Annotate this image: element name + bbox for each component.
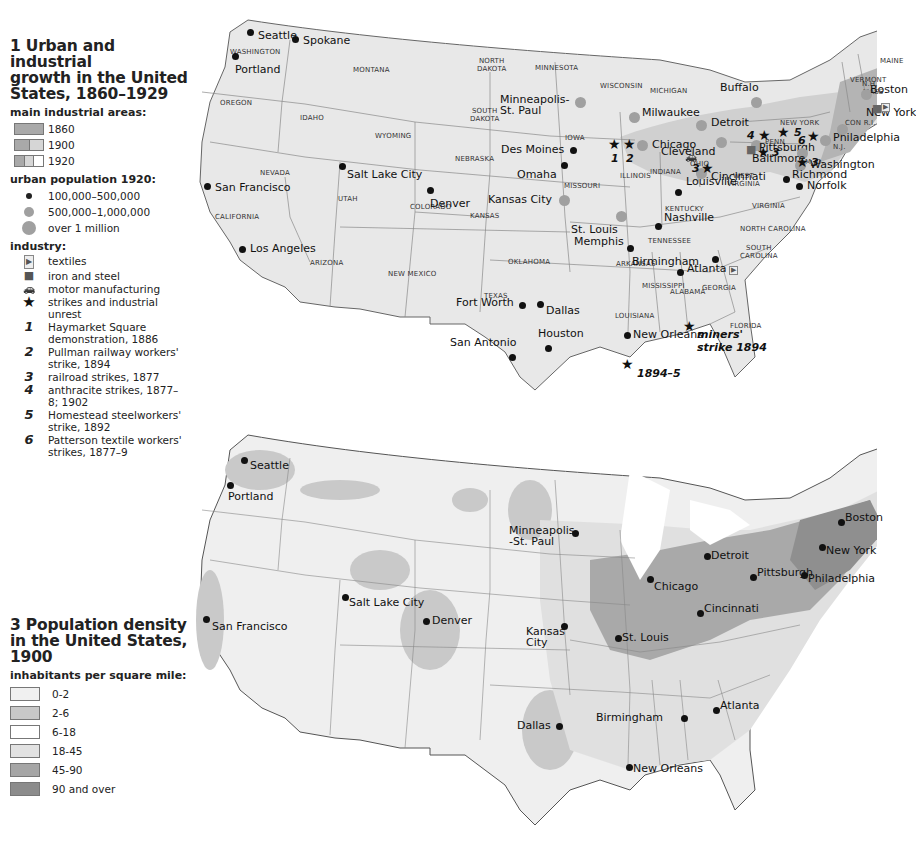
city-dot-icon [655,223,662,230]
strike-label: Haymarket Square demonstration, 1886 [48,321,183,345]
city-label: New Orleans [633,763,703,774]
city-label: San Francisco [215,182,291,193]
state-label: ILLINOIS [620,172,651,180]
density-label: 90 and over [52,783,115,795]
city-dot-icon [241,457,248,464]
strike-item-1: 1Haymarket Square demonstration, 1886 [10,321,200,345]
strike-label: Pullman railway workers' strike, 1894 [48,346,183,370]
city-dot-icon [837,124,848,135]
strike-star-icon: ★ [683,319,696,333]
density-swatch [10,725,40,739]
state-label: N.J. [833,143,846,151]
state-label: MONTANA [353,66,390,74]
legend1-title: 1 Urban and industrial growth in the Uni… [10,38,200,102]
strike-label: Homestead steelworkers' strike, 1892 [48,409,183,433]
city-label: Minneapolis -St. Paul [509,525,575,547]
industrial-area-label: 1920 [48,155,75,167]
industry-item: ■iron and steel [10,270,200,282]
city-dot-icon [575,97,586,108]
city-label: Denver [430,198,470,209]
city-label: San Francisco [212,621,288,632]
city-label: Cincinnati [704,603,759,614]
state-label: WYOMING [375,132,412,140]
urban-pop-label: 100,000–500,000 [48,190,140,202]
symbol-cell: 🚗 [10,283,48,295]
strike-number: 5 [24,409,33,421]
density-swatch [10,763,40,777]
strike-item-6: 6Patterson textile workers' strikes, 187… [10,434,200,458]
urban-population-heading: urban population 1920: [10,173,200,186]
city-dot-icon [247,29,254,36]
industrial-area-label: 1860 [48,123,75,135]
city-label: Boston [870,84,908,95]
density-item: 90 and over [10,779,200,798]
legend3-title: 3 Population density in the United State… [10,617,200,665]
city-dot-icon [675,189,682,196]
city-label: Fort Worth [456,297,514,308]
strike-annotation: 1894–5 [637,367,681,380]
swatch-cell [10,725,52,739]
city-dot-icon [629,112,640,123]
city-dot-icon [292,36,299,43]
strike-label: railroad strikes, 1877 [48,371,159,383]
city-dot-icon [704,553,711,560]
state-label: WISCONSIN [600,82,643,90]
state-label: OREGON [220,99,252,107]
state-label: NEW MEXICO [388,270,437,278]
state-label: NEBRASKA [455,155,494,163]
density-item: 6-18 [10,722,200,741]
city-label: Seattle [250,460,289,471]
city-label: Spokane [303,35,350,46]
city-dot-icon [232,53,239,60]
city-label: Salt Lake City [347,169,422,180]
city-label: St. Louis [571,224,618,235]
density-heading: inhabitants per square mile: [10,669,200,682]
city-dot-icon [677,269,684,276]
swatch-part [15,156,25,166]
industrial-areas-list: 186019001920 [10,121,200,169]
city-dot-icon [716,137,727,148]
city-dot-icon [26,193,32,199]
swatch-part [25,156,35,166]
textiles-icon: ▶ [881,103,890,112]
swatch-part [15,140,30,150]
state-label: SOUTH CAROLINA [740,244,778,260]
symbol-cell [10,193,48,199]
city-dot-icon [239,246,246,253]
city-dot-icon [838,519,845,526]
urban-population-list: 100,000–500,000500,000–1,000,000over 1 m… [10,188,200,236]
industry-label: motor manufacturing [48,283,160,295]
density-label: 6-18 [52,726,76,738]
state-label: NEVADA [260,169,290,177]
density-item: 2-6 [10,703,200,722]
city-label: Memphis [574,236,624,247]
state-label: IDAHO [300,114,324,122]
industrial-area-1900: 1900 [10,137,200,153]
industry-label: textiles [48,255,87,267]
state-label: VIRGINIA [752,202,785,210]
symbol-cell: 1 [10,321,48,333]
city-dot-icon [616,211,627,222]
density-swatch [10,687,40,701]
strike-number: 6 [798,134,806,147]
city-dot-icon [819,544,826,551]
state-label: MICHIGAN [650,87,687,95]
city-label: Houston [538,328,584,339]
strike-number: 3 [692,162,700,175]
city-dot-icon [615,635,622,642]
city-dot-icon [427,187,434,194]
city-dot-icon [203,616,210,623]
symbol-cell [10,207,48,217]
symbol-cell [10,221,48,235]
swatch-cell [10,155,48,167]
city-dot-icon [556,723,563,730]
city-label: Louisville [686,176,737,187]
city-label: Philadelphia [808,573,875,584]
city-label: Minneapolis- St. Paul [500,94,570,116]
city-dot-icon [637,140,648,151]
urban-pop-label: over 1 million [48,222,120,234]
state-label: OKLAHOMA [508,258,550,266]
city-label: Boston [845,512,883,523]
strike-item-2: 2Pullman railway workers' strike, 1894 [10,346,200,370]
state-label: TENNESSEE [648,237,691,245]
